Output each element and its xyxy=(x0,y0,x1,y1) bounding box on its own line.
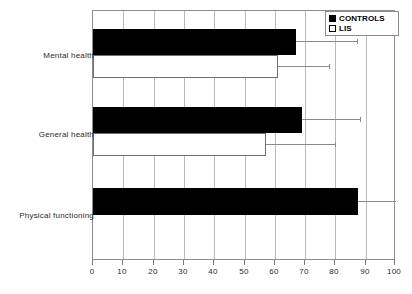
legend-swatch-controls-icon xyxy=(329,15,336,22)
bar-row-physical-functioning-controls xyxy=(93,188,394,215)
legend-swatch-lis-icon xyxy=(329,25,336,32)
plot-area xyxy=(92,10,395,260)
errorbar-general-health-lis xyxy=(266,144,335,145)
errorbar-cap-mental-health-lis xyxy=(329,64,330,69)
tick-label-50: 50 xyxy=(229,267,259,276)
tick-mark-50 xyxy=(244,260,245,265)
tick-mark-90 xyxy=(365,260,366,265)
bar-row-general-health-controls xyxy=(93,107,394,133)
category-band-mental-health xyxy=(93,29,394,97)
category-label-physical-functioning: Physical functioning xyxy=(19,211,94,220)
tick-label-100: 100 xyxy=(379,267,409,276)
tick-mark-100 xyxy=(394,260,395,265)
tick-label-80: 80 xyxy=(319,267,349,276)
bar-row-physical-functioning-lis xyxy=(93,215,394,238)
legend-item-lis[interactable]: LIS xyxy=(329,24,395,33)
category-label-general-health: General health xyxy=(39,130,94,139)
tick-label-70: 70 xyxy=(289,267,319,276)
tick-mark-60 xyxy=(274,260,275,265)
tick-mark-70 xyxy=(304,260,305,265)
legend-item-controls[interactable]: CONTROLS xyxy=(329,14,395,23)
errorbar-mental-health-controls xyxy=(296,41,357,42)
tick-mark-80 xyxy=(334,260,335,265)
tick-mark-40 xyxy=(213,260,214,265)
tick-label-20: 20 xyxy=(138,267,168,276)
errorbar-cap-general-health-controls xyxy=(360,117,361,122)
tick-label-10: 10 xyxy=(107,267,137,276)
errorbar-physical-functioning-controls xyxy=(358,201,396,202)
tick-mark-20 xyxy=(153,260,154,265)
legend-label-controls: CONTROLS xyxy=(339,14,385,23)
tick-mark-30 xyxy=(183,260,184,265)
errorbar-cap-mental-health-controls xyxy=(357,39,358,44)
bar-row-mental-health-lis xyxy=(93,55,394,78)
tick-label-90: 90 xyxy=(350,267,380,276)
bar-mental-health-controls[interactable] xyxy=(93,29,296,55)
tick-mark-10 xyxy=(122,260,123,265)
tick-mark-0 xyxy=(92,260,93,265)
category-label-mental-health: Mental health xyxy=(43,51,94,60)
bar-mental-health-lis[interactable] xyxy=(93,55,278,78)
bar-row-general-health-lis xyxy=(93,133,394,156)
tick-label-0: 0 xyxy=(77,267,107,276)
errorbar-cap-general-health-lis xyxy=(335,142,336,147)
legend: CONTROLS LIS xyxy=(325,11,399,36)
bar-general-health-controls[interactable] xyxy=(93,107,302,133)
errorbar-general-health-controls xyxy=(302,119,360,120)
tick-label-60: 60 xyxy=(259,267,289,276)
category-band-physical-functioning xyxy=(93,188,394,256)
tick-label-40: 40 xyxy=(198,267,228,276)
bar-physical-functioning-controls[interactable] xyxy=(93,188,358,215)
category-band-general-health xyxy=(93,107,394,175)
bar-general-health-lis[interactable] xyxy=(93,133,266,156)
chart-container: CONTROLS LIS Mental health General healt… xyxy=(0,0,412,294)
tick-label-30: 30 xyxy=(168,267,198,276)
errorbar-mental-health-lis xyxy=(278,66,329,67)
legend-label-lis: LIS xyxy=(339,24,352,33)
